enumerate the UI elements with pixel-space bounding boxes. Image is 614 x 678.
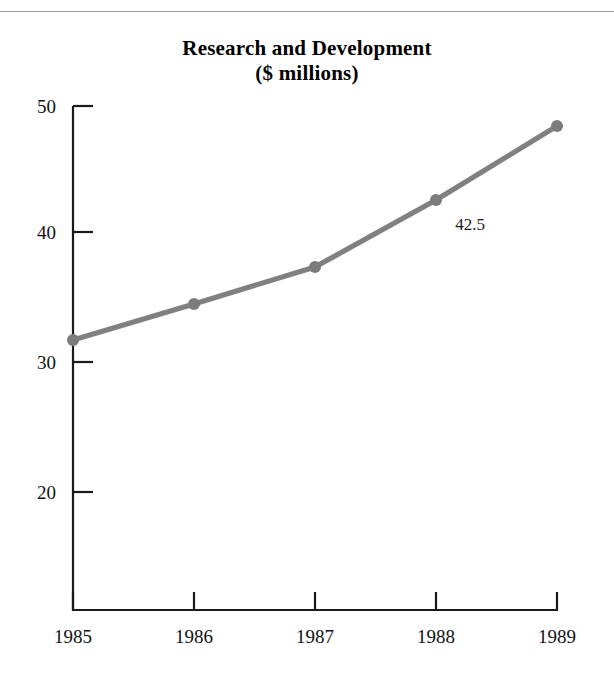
data-point-1986: [188, 298, 200, 310]
y-axis-label-50: 50: [10, 97, 56, 116]
data-point-1987: [309, 261, 321, 273]
x-axis-label-1985: 1985: [33, 627, 113, 646]
y-axis-label-40: 40: [10, 223, 56, 242]
data-point-1988: [430, 194, 442, 206]
chart-plot-area: [0, 0, 614, 678]
y-axis-label-30: 30: [10, 353, 56, 372]
data-point-1985: [67, 334, 79, 346]
data-point-1989: [551, 120, 563, 132]
x-axis-label-1987: 1987: [275, 627, 355, 646]
data-label-1988: 42.5: [440, 216, 500, 233]
x-axis-label-1986: 1986: [154, 627, 234, 646]
x-axis-label-1989: 1989: [517, 627, 597, 646]
y-axis-label-20: 20: [10, 483, 56, 502]
x-axis-label-1988: 1988: [396, 627, 476, 646]
line-chart-figure: Research and Development ($ millions) 50…: [0, 0, 614, 678]
